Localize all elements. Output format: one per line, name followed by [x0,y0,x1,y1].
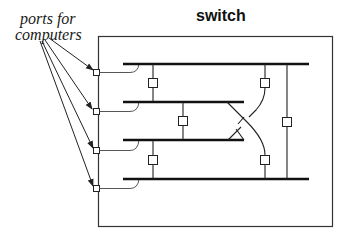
switch-elements [149,79,292,165]
port-4 [94,186,100,192]
port-1 [94,70,100,76]
port-connectors [100,64,140,189]
switch-element-1 [149,79,158,88]
annotation-ports-line2: computers [15,26,82,44]
annotation-arrows [40,38,93,186]
switch-element-2 [179,117,188,126]
switch-diagram: ports for computers switch [0,0,351,236]
switch-element-4 [261,79,270,88]
switch-element-5 [283,118,292,127]
port-3 [94,148,100,154]
switch-element-6 [261,156,270,165]
switch-element-3 [149,156,158,165]
switch-title: switch [196,7,246,24]
port-2 [94,109,100,115]
